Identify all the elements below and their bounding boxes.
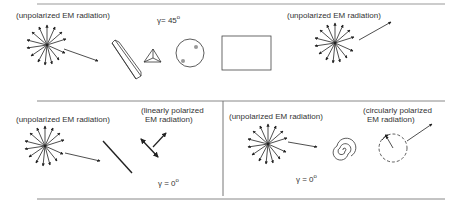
degree-symbol: o: [177, 14, 180, 20]
beam-arrow: [407, 124, 432, 141]
bottom-left-source-label: (unpolarized EM radiation): [16, 115, 110, 124]
polarization-double-arrow: [141, 139, 158, 157]
beam-arrow: [359, 22, 391, 40]
bottom-right-gamma-label: γ = 0o: [296, 173, 317, 184]
prism-icon: [112, 40, 141, 79]
rotating-vector-arrow: [386, 136, 393, 148]
gamma-value: = 0: [300, 175, 314, 184]
top-right-source-label: (unpolarized EM radiation): [287, 11, 381, 20]
beam-arrow: [288, 142, 317, 147]
triangle-crystal-icon: [144, 49, 161, 62]
circular-result-label-line2: EM radiation): [367, 115, 415, 124]
beam-arrow: [65, 153, 100, 161]
bottom-left-gamma-label: γ = 0o: [158, 177, 179, 188]
gamma-value: = 0: [162, 179, 176, 188]
degree-symbol: o: [176, 177, 179, 183]
starburst-icon: [27, 25, 66, 65]
polarization-diagram: [0, 0, 457, 206]
top-left-source-label: (unpolarized EM radiation): [16, 11, 110, 20]
linear-result-label-line1: (linearly polarized: [141, 106, 204, 115]
linear-result-label-line2: EM radiation): [145, 115, 193, 124]
degree-symbol: o: [314, 173, 317, 179]
beam-arrow: [153, 133, 166, 147]
rectangle-slab-icon: [222, 36, 271, 70]
linear-polarizer-icon: [103, 141, 132, 173]
beam-arrow: [64, 49, 98, 61]
starburst-icon: [315, 23, 354, 63]
top-gamma-label: γ= 45o: [157, 14, 180, 25]
bottom-right-source-label: (unpolarized EM radiation): [229, 112, 323, 121]
circular-result-label-line1: (circularly polarized: [363, 106, 432, 115]
spiral-polarizer-icon: [333, 138, 356, 160]
starburst-icon: [248, 124, 287, 164]
starburst-icon: [25, 126, 64, 166]
circular-plate-icon: [176, 39, 204, 67]
gamma-value: = 45: [161, 16, 177, 25]
